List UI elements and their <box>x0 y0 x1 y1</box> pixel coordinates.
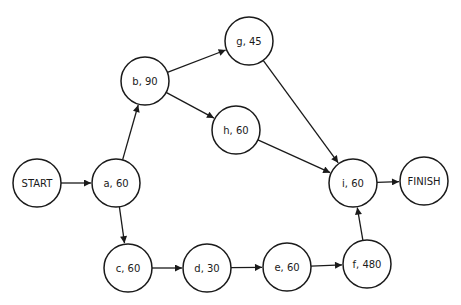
node-label: f, 480 <box>353 259 382 270</box>
node-label: START <box>22 178 54 189</box>
node-h: h, 60 <box>212 106 260 154</box>
node-g: g, 45 <box>225 17 273 65</box>
node-label: e, 60 <box>274 262 299 273</box>
edge-f-to-i <box>357 208 363 241</box>
arrow-icon <box>311 265 342 266</box>
node-a: a, 60 <box>92 159 140 207</box>
node-b: b, 90 <box>121 57 169 105</box>
node-label: b, 90 <box>132 76 157 87</box>
edge-b-to-h <box>166 92 214 118</box>
edge-e-to-f <box>311 265 342 266</box>
edge-i-to-finish <box>377 182 399 183</box>
node-label: h, 60 <box>223 125 248 136</box>
edge-b-to-g <box>167 50 225 72</box>
edge-a-to-c <box>119 207 124 243</box>
edge-h-to-i <box>258 140 330 173</box>
arrow-icon <box>258 140 330 173</box>
node-label: i, 60 <box>342 178 364 189</box>
arrow-icon <box>166 92 214 118</box>
arrow-icon <box>123 105 139 160</box>
arrow-icon <box>167 50 225 72</box>
node-i: i, 60 <box>329 159 377 207</box>
node-label: a, 60 <box>103 178 128 189</box>
arrow-icon <box>377 182 399 183</box>
node-label: c, 60 <box>116 263 141 274</box>
node-start: START <box>13 159 61 207</box>
node-e: e, 60 <box>263 243 311 291</box>
node-f: f, 480 <box>343 240 391 288</box>
node-d: d, 30 <box>183 244 231 292</box>
network-diagram: STARTa, 60b, 90g, 45h, 60i, 60FINISHc, 6… <box>0 0 461 305</box>
arrow-icon <box>357 208 363 241</box>
nodes-layer: STARTa, 60b, 90g, 45h, 60i, 60FINISHc, 6… <box>13 17 448 292</box>
arrow-icon <box>119 207 124 243</box>
node-c: c, 60 <box>104 244 152 292</box>
node-label: FINISH <box>408 176 441 187</box>
node-label: d, 30 <box>194 263 219 274</box>
edge-a-to-b <box>123 105 139 160</box>
node-finish: FINISH <box>400 157 448 205</box>
node-label: g, 45 <box>236 36 261 47</box>
